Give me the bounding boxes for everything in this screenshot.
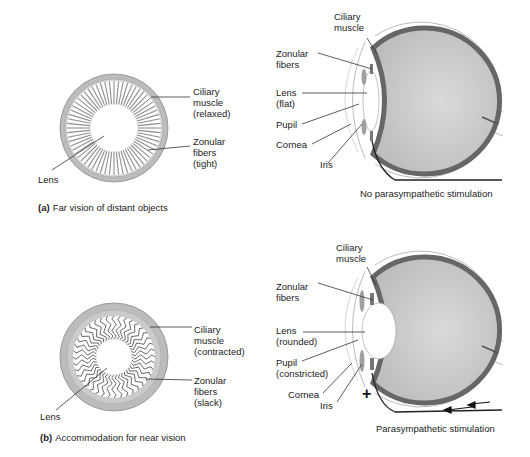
caption-b: (b)Accommodation for near vision	[40, 432, 186, 443]
label-zonular-fibers-tight: Zonular fibers (tight)	[193, 136, 225, 169]
side-view-eye-near	[302, 251, 503, 413]
label-ciliary-muscle-contracted: Ciliary muscle (contracted)	[194, 324, 245, 357]
label-side-zonular-fibers-b: Zonular fibers	[276, 281, 308, 303]
label-side-ciliary-muscle-a: Ciliary muscle	[334, 11, 364, 33]
plus-sign: +	[362, 385, 371, 403]
side-view-eye-far	[302, 22, 503, 180]
label-side-iris-a: Iris	[320, 159, 333, 170]
label-parasympathetic: Parasympathetic stimulation	[376, 423, 495, 434]
label-no-parasympathetic: No parasympathetic stimulation	[360, 188, 493, 199]
label-side-lens-rounded: Lens (rounded)	[276, 325, 317, 347]
label-zonular-fibers-slack: Zonular fibers (slack)	[194, 375, 226, 408]
front-view-contracted	[56, 303, 192, 411]
label-side-cornea-a: Cornea	[276, 139, 307, 150]
label-side-pupil-a: Pupil	[276, 119, 297, 130]
signal-arrows	[444, 402, 490, 413]
label-side-ciliary-muscle-b: Ciliary muscle	[336, 242, 366, 264]
label-side-pupil-constricted: Pupil (constricted)	[276, 357, 328, 379]
label-side-iris-b: Iris	[320, 400, 333, 411]
label-ciliary-muscle-relaxed: Ciliary muscle (relaxed)	[193, 86, 231, 119]
diagram-canvas	[0, 0, 530, 457]
caption-a: (a)Far vision of distant objects	[38, 202, 168, 213]
label-lens-a: Lens	[38, 174, 59, 185]
label-side-zonular-fibers-a: Zonular fibers	[276, 48, 308, 70]
label-side-lens-flat: Lens (flat)	[276, 87, 297, 109]
front-view-relaxed	[52, 74, 190, 182]
label-side-cornea-b: Cornea	[288, 389, 319, 400]
label-lens-b: Lens	[40, 411, 61, 422]
